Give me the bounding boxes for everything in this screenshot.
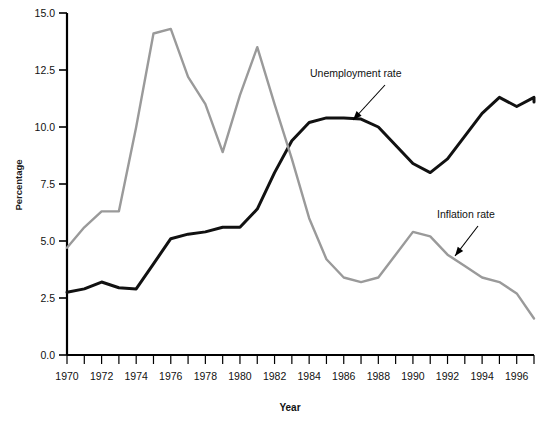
x-tick-label: 1976	[159, 370, 183, 382]
data-series-group	[67, 29, 534, 319]
x-tick-label: 1994	[470, 370, 494, 382]
x-tick-label: 1978	[194, 370, 218, 382]
x-tick-label: 1988	[367, 370, 391, 382]
y-tick-label: 0.0	[40, 349, 55, 361]
y-tick-label: 15.0	[35, 7, 56, 19]
annotation-label: Inflation rate	[437, 208, 495, 220]
y-tick-label: 5.0	[40, 235, 55, 247]
line-chart: 0.02.55.07.510.012.515.0 197019721974197…	[0, 0, 545, 424]
y-axis-tick-labels: 0.02.55.07.510.012.515.0	[35, 7, 56, 361]
y-tick-label: 10.0	[35, 121, 56, 133]
y-axis-ticks	[59, 13, 67, 355]
x-tick-label: 1992	[436, 370, 460, 382]
x-tick-label: 1986	[332, 370, 356, 382]
x-tick-label: 1984	[297, 370, 321, 382]
y-tick-label: 2.5	[40, 292, 55, 304]
x-tick-label: 1996	[505, 370, 529, 382]
x-axis-tick-labels: 1970197219741976197819801982198419861988…	[55, 370, 528, 382]
x-tick-label: 1980	[228, 370, 252, 382]
series-line-inflation-rate	[67, 29, 534, 319]
annotation-label: Unemployment rate	[310, 67, 402, 79]
chart-container: 0.02.55.07.510.012.515.0 197019721974197…	[0, 0, 545, 424]
annotation-arrow-head	[455, 247, 463, 256]
x-axis-ticks	[67, 355, 534, 364]
x-tick-label: 1972	[90, 370, 114, 382]
x-axis-title: Year	[279, 402, 300, 413]
x-tick-label: 1990	[401, 370, 425, 382]
x-tick-label: 1974	[125, 370, 149, 382]
chart-annotations: Unemployment rateInflation rate	[310, 67, 495, 256]
y-axis-title: Percentage	[13, 159, 24, 210]
y-tick-label: 7.5	[40, 178, 55, 190]
y-tick-label: 12.5	[35, 64, 56, 76]
x-tick-label: 1970	[55, 370, 79, 382]
x-tick-label: 1982	[263, 370, 287, 382]
